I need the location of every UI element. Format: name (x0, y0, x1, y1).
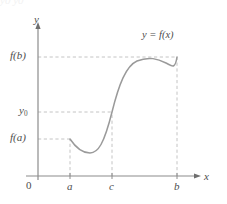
curve-label: y = f(x) (142, 30, 174, 41)
y-tick-label-y0-subscript: 0 (24, 110, 28, 118)
y-tick-label-fa: f(a) (10, 132, 26, 143)
y-tick-label-y0: y0 (19, 105, 28, 118)
x-tick-label-b: b (174, 181, 180, 192)
x-tick-label-c: c (109, 181, 114, 192)
x-axis-label: x (204, 171, 209, 182)
x-axis-arrowhead (194, 173, 201, 178)
x-tick-label-a: a (67, 181, 73, 192)
function-graph-figure (0, 0, 227, 204)
function-curve (70, 57, 177, 153)
y-tick-label-fb: f(b) (10, 50, 26, 61)
y-axis-label: y (34, 14, 39, 25)
x-tick-label-zero: 0 (26, 180, 32, 191)
